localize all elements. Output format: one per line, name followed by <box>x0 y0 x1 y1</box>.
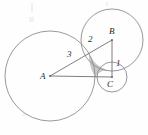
label-length-ab: 2 <box>88 35 93 44</box>
scan-artifacts <box>22 2 108 116</box>
shaded-curvilinear-triangle <box>89 53 112 76</box>
label-point-c: C <box>107 80 113 89</box>
label-point-a: A <box>40 72 46 81</box>
figure-canvas <box>0 0 148 135</box>
segment-ac <box>50 76 112 77</box>
vertex-c-dot <box>111 76 113 78</box>
geometry-figure: A B C 3 2 1 <box>0 0 148 135</box>
label-length-ac: 3 <box>67 50 72 59</box>
vertex-b-dot <box>111 39 113 41</box>
vertex-a-dot <box>49 75 51 77</box>
label-point-b: B <box>109 27 115 36</box>
label-length-bc: 1 <box>116 59 121 68</box>
